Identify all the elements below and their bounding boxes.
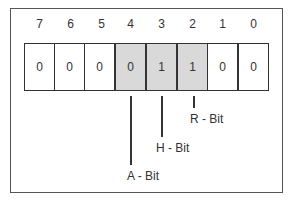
bit-cell-6: 0: [54, 43, 85, 91]
a-bit-label: A - Bit: [127, 169, 159, 183]
bit-index-5: 5: [86, 17, 117, 31]
bit-cell-0: 0: [238, 43, 269, 91]
bit-cell-2: 1: [177, 43, 208, 91]
bit-index-6: 6: [55, 17, 86, 31]
bit-cell-3: 1: [146, 43, 177, 91]
bit-index-1: 1: [207, 17, 238, 31]
bit-cell-5: 0: [84, 43, 115, 91]
bit-index-4: 4: [115, 17, 146, 31]
diagram-frame: [10, 8, 283, 193]
bit-index-7: 7: [24, 17, 55, 31]
r-bit-label: R - Bit: [190, 112, 223, 126]
bit-index-0: 0: [238, 17, 269, 31]
bit-index-3: 3: [146, 17, 177, 31]
r-bit-leader-line: [193, 96, 195, 108]
bit-cell-1: 0: [207, 43, 238, 91]
h-bit-label: H - Bit: [156, 141, 189, 155]
bit-index-2: 2: [177, 17, 208, 31]
bit-cell-7: 0: [24, 43, 55, 91]
bit-cell-4: 0: [115, 43, 146, 91]
a-bit-leader-line: [130, 96, 132, 165]
h-bit-leader-line: [161, 96, 163, 137]
